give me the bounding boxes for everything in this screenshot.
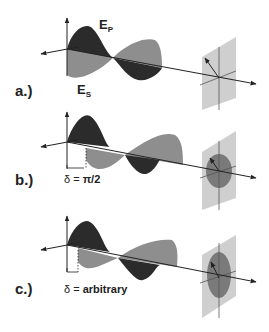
panel-b: δ = π/2 b.) [15,112,256,210]
panel-b-label: b.) [15,171,33,188]
panel-c: δ = arbitrary c.) [15,216,256,318]
polarization-diagram: EP ES a.) δ = π/2 b.) [0,0,269,332]
field-p-label: EP [99,17,114,34]
field-s-label: ES [77,82,92,99]
phase-delta-label: δ = π/2 [64,173,100,185]
panel-c-label: c.) [15,280,33,297]
panel-a-label: a.) [15,82,33,99]
panel-a: EP ES a.) [15,17,256,110]
phase-delta-label: δ = arbitrary [64,283,128,295]
